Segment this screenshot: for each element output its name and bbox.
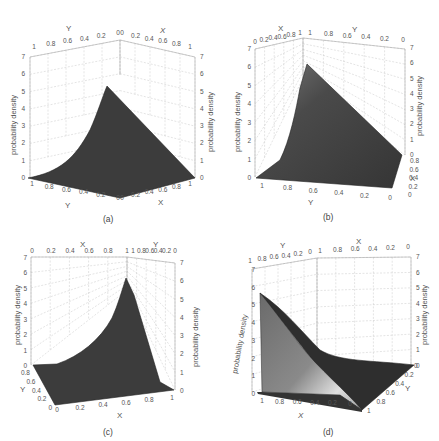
panel-c-zlabel-left: probability density	[13, 285, 22, 345]
panel-b-surface	[256, 64, 402, 188]
panel-a-bottom-y-tick: 0.4	[79, 188, 88, 195]
panel-c-zlabel-right: probability density	[191, 307, 200, 367]
panel-a-z-tick: 6	[200, 70, 204, 77]
panel-b-z-tick: 1	[247, 156, 251, 163]
panel-a-bottom-x-tick: 0.2	[131, 191, 140, 198]
panel-c-top-x-label: X	[80, 240, 86, 249]
panel-d-z-tick: 3	[251, 337, 255, 344]
panel-c-z-tick: 1	[180, 369, 184, 376]
panel-b-z-tick: 2	[410, 120, 414, 127]
panel-a-z-tick: 7	[200, 53, 204, 60]
panel-b-side-x-label: X	[410, 174, 416, 183]
panel-c-side-y-tick: 0.6	[26, 378, 35, 385]
panel-d-zlabel-right: probability density	[420, 285, 429, 345]
panel-a: 012345670123456710.80.60.40.2000.20.40.6…	[9, 24, 215, 224]
panel-b-z-tick: 4	[247, 100, 251, 107]
panel-d-top-x-tick: 0.2	[386, 244, 395, 251]
panel-d-side-y-tick: 0.6	[386, 389, 395, 396]
panel-d-z-tick: 6	[416, 269, 420, 276]
panel-c-z-gridline	[31, 276, 127, 319]
panel-c-bottom-x-tick: 0.6	[121, 399, 130, 406]
panel-a-top-y-tick: 0.2	[97, 32, 106, 39]
panel-c-top-x-tick: 0.6	[84, 247, 93, 254]
panel-a-z-tick: 6	[21, 70, 25, 77]
panel-a-z-gridline	[30, 57, 120, 74]
panel-b-side-x-tick: 0.2	[409, 183, 418, 190]
panel-b-top-y-tick: 0	[401, 36, 405, 43]
panel-a-z-gridline	[120, 57, 195, 74]
panel-c-z-tick: 5	[23, 285, 27, 292]
panel-c-z-tick: 7	[23, 254, 27, 261]
panel-d-z-tick: 6	[251, 284, 255, 291]
panel-d-top-x-tick: 1	[318, 247, 322, 254]
panel-d-side-y-tick: 0.2	[405, 371, 414, 378]
panel-c-z-tick: 6	[23, 269, 27, 276]
panel-d-side-y-label: Y	[405, 384, 411, 393]
panel-c-side-y-tick: 0.2	[37, 395, 46, 402]
panel-b-top-y-tick: 0.4	[361, 33, 370, 40]
panel-c-top-y-label: Y	[153, 240, 159, 249]
panel-b-z-tick: 7	[247, 45, 251, 52]
panel-a-top-x-tick: 0	[120, 29, 124, 36]
panel-b-z-tick: 3	[247, 119, 251, 126]
panel-b-top-x-label: X	[278, 24, 284, 33]
panel-b-top-x-tick: 0.2	[259, 36, 268, 43]
panel-b-zlabel-left: probability density	[233, 92, 242, 152]
panel-a-z-tick: 5	[200, 88, 204, 95]
panel-a-z-tick: 2	[21, 139, 25, 146]
panel-c-z-tick: 0	[23, 362, 27, 369]
panel-c-z-tick: 3	[180, 332, 184, 339]
panel-c-z-tick: 4	[23, 300, 27, 307]
panel-c-caption: (c)	[103, 427, 113, 437]
panel-b-top-x-tick: 0.4	[268, 34, 277, 41]
panel-b-top-x-tick: 0	[253, 38, 257, 45]
panel-b-z-gridline	[255, 49, 303, 85]
panel-a-top-y-tick: 1	[32, 43, 36, 50]
panel-a-z-tick: 3	[200, 122, 204, 129]
panel-c-z-tick: 6	[180, 277, 184, 284]
panel-b-z-tick: 5	[410, 75, 414, 82]
panel-d-bottom-x-tick: 1	[260, 397, 264, 404]
panel-c-top-x-tick: 1	[125, 247, 129, 254]
panel-c-z-tick: 0	[180, 387, 184, 394]
panel-a-zlabel-left: probability density	[9, 95, 18, 155]
panel-c-surface	[33, 278, 174, 405]
panel-d-z-tick: 7	[416, 253, 420, 260]
panel-d-side-y-tick: 1	[367, 407, 371, 414]
panel-c-bottom-x-tick: 0.8	[144, 396, 153, 403]
panel-d-top-y-tick: 0.4	[281, 252, 290, 259]
panel-b-side-x-tick: 0.8	[410, 157, 419, 164]
panel-d-top-y-tick: 0	[308, 248, 312, 255]
panel-d-z-tick: 1	[416, 346, 420, 353]
panel-b-bottom-y-label: Y	[308, 198, 314, 207]
panel-b-zlabel-right: probability density	[415, 76, 424, 136]
panel-c-top-x-tick: 0.4	[65, 247, 74, 254]
panel-d-z-tick: 1	[251, 372, 255, 379]
panel-c-bottom-x-tick: 0	[55, 406, 59, 413]
panel-b-z-tick: 0	[247, 174, 251, 181]
panel-c-z-tick: 1	[23, 347, 27, 354]
panel-b-z-gridline	[255, 55, 303, 104]
panel-d-z-gridline	[317, 272, 411, 274]
panel-b-z-tick: 7	[410, 44, 414, 51]
panel-a-bottom-x-tick: 1	[188, 180, 192, 187]
panel-a-z-tick: 2	[200, 139, 204, 146]
panel-c-z-tick: 3	[23, 316, 27, 323]
panel-b-z-tick: 6	[410, 59, 414, 66]
panel-a-top-y-tick: 0.4	[80, 35, 89, 42]
panel-c-side-y-tick: 0	[48, 404, 52, 411]
panel-a-bottom-x-label: X	[158, 198, 164, 207]
panel-d-z-gridline	[317, 303, 411, 307]
panel-a-caption: (a)	[103, 214, 114, 224]
panel-a-z-tick: 1	[200, 157, 204, 164]
panel-a-bottom-x-tick: 0.4	[145, 188, 154, 195]
panel-c-top-x-tick: 0	[30, 247, 34, 254]
panel-c-bottom-x-tick: 0.4	[98, 401, 107, 408]
panel-d-z-tick: 2	[251, 355, 255, 362]
panel-c-z-tick: 4	[180, 314, 184, 321]
panel-b-top-y-tick: 1	[308, 29, 312, 36]
panel-c-bottom-x-label: X	[117, 411, 123, 420]
panel-a-bottom-y-label: Y	[65, 201, 71, 210]
panel-c-z-gridline	[31, 271, 127, 303]
panel-d-side-y-tick: 0.8	[376, 398, 385, 405]
